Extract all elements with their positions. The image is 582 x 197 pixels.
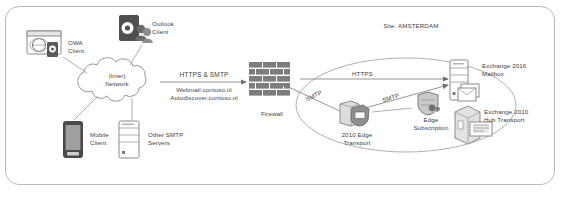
link-label-https: HTTPS [352, 70, 373, 78]
diagram-canvas: OWA Client Outlook Client (Inter) Networ… [0, 0, 582, 197]
node-exchange-2016-mailbox-label: Exchange 2016 Mailbox [482, 62, 526, 78]
node-edge-subscription-label: Edge Subscription [404, 116, 458, 132]
link-label-hostnames: Webmail.contoso.nl Autodiscover.contoso.… [158, 86, 250, 102]
link-label-https-smtp: HTTPS & SMTP [165, 71, 243, 79]
node-other-smtp-servers-label: Other SMTP Servers [148, 131, 183, 147]
browser-globe-icon [26, 30, 66, 58]
node-2010-edge-transport-label: 2010 Edge Transport [330, 131, 384, 147]
node-2010-edge-transport[interactable] [337, 100, 373, 130]
server-tower-icon [118, 120, 144, 160]
node-firewall[interactable] [249, 62, 295, 104]
server-mailbox-icon [448, 60, 484, 108]
node-exchange-2016-mailbox[interactable] [448, 60, 484, 108]
brick-wall-icon [249, 62, 295, 104]
node-owa-client-label: OWA Client [68, 39, 84, 55]
network-cloud-label: (Inter) Network [95, 72, 139, 88]
server-shield-icon [337, 100, 373, 130]
node-mobile-client[interactable] [62, 120, 86, 160]
node-mobile-client-label: Mobile Client [90, 131, 109, 147]
node-outlook-client-label: Outlook Client [152, 20, 174, 36]
node-exchange-2010-hub-transport-label: Exchange 2010 Hub Transport [484, 108, 528, 124]
node-other-smtp-servers[interactable] [118, 120, 144, 160]
shield-key-icon [416, 92, 442, 118]
node-firewall-label: Firewall [243, 110, 301, 118]
mobile-phone-icon [62, 120, 86, 160]
site-label: Site: AMSTERDAM [366, 22, 456, 30]
node-edge-subscription[interactable] [416, 92, 442, 118]
node-owa-client[interactable] [26, 30, 66, 58]
